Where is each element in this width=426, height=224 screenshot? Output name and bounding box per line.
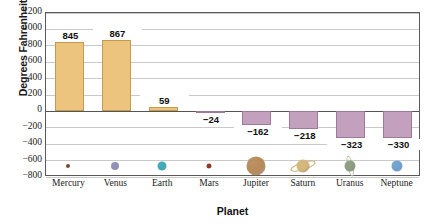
gridline [46,13,419,14]
y-axis-tick-label: 0 [0,105,42,115]
bar-jupiter [242,111,271,124]
bar-value-label: 845 [46,30,95,41]
x-axis-tick-labels: MercuryVenusEarthMarsJupiterSaturnUranus… [45,178,420,193]
planet-icon-strip [45,155,420,176]
x-axis-title: Planet [45,205,420,217]
neptune-planet-icon [391,161,402,172]
x-axis-tick-label-neptune: Neptune [380,178,412,188]
y-axis-tick-label: −400 [0,138,42,148]
x-axis-tick-label-mercury: Mercury [52,178,85,188]
mercury-planet-icon [66,164,70,168]
x-axis-tick-label-venus: Venus [104,178,127,188]
y-axis-tick-label: 1200 [0,7,42,17]
saturn-planet-icon [296,160,309,173]
x-axis-tick-label-earth: Earth [152,178,173,188]
bar-neptune [383,111,412,138]
y-axis-tick-label: −800 [0,171,42,181]
bar-value-label: −24 [187,114,236,125]
x-axis-tick-label-jupiter: Jupiter [243,178,269,188]
y-axis-tick-label: 400 [0,73,42,83]
y-axis-tick-label: 800 [0,40,42,50]
jupiter-planet-icon [246,157,265,176]
y-axis-tick-label: 1000 [0,23,42,33]
mars-planet-icon [207,164,212,169]
bar-value-label: −218 [280,130,329,141]
y-axis-tick-label: −200 [0,122,42,132]
bar-venus [102,40,131,111]
bar-uranus [336,111,365,137]
y-axis-tick-label: 200 [0,89,42,99]
bar-saturn [289,111,318,129]
bar-value-label: −323 [327,139,376,150]
x-axis-tick-label-mars: Mars [199,178,219,188]
uranus-planet-icon [344,161,355,172]
planet-temperature-bar-chart: Degrees Fahrenheit 120010008006004002000… [0,0,426,224]
earth-planet-icon [158,162,167,171]
y-axis-tick-label: 600 [0,56,42,66]
x-axis-tick-label-saturn: Saturn [290,178,315,188]
bar-value-label: −162 [234,126,283,137]
bar-value-label: −330 [374,139,423,150]
bar-mars [196,111,225,113]
x-axis-tick-label-uranus: Uranus [336,178,363,188]
bar-earth [149,107,178,112]
y-axis-tick-labels: 120010008006004002000−200−400−600−800 [0,0,42,224]
plot-area: 84586759−24−162−218−323−330 [45,12,420,176]
venus-planet-icon [111,162,119,170]
bar-value-label: 59 [140,95,189,106]
y-axis-tick-label: −600 [0,155,42,165]
bar-value-label: 867 [93,28,142,39]
bar-mercury [55,42,84,111]
